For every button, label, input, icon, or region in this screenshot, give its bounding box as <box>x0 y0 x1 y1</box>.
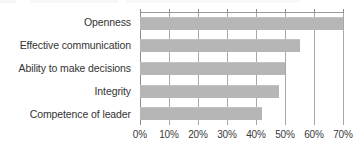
bar <box>140 17 343 30</box>
bar-series <box>140 12 343 125</box>
value-axis-tick-label: 20% <box>188 128 208 141</box>
bar-row <box>140 81 343 102</box>
bar-row <box>140 58 343 79</box>
category-label: Integrity <box>95 86 131 97</box>
bar-row <box>140 13 343 34</box>
bar-chart: Openness Effective communication Ability… <box>0 0 364 161</box>
value-axis-tick-label: 0% <box>133 128 147 141</box>
bar <box>140 85 279 98</box>
bar <box>140 107 262 120</box>
value-axis-tick-label: 30% <box>217 128 237 141</box>
bar-row <box>140 35 343 56</box>
gridline <box>343 12 344 125</box>
value-axis-tick-label: 70% <box>333 128 353 141</box>
bar <box>140 39 300 52</box>
category-axis-labels: Openness Effective communication Ability… <box>0 12 136 125</box>
category-row: Openness <box>0 12 136 33</box>
category-label: Ability to make decisions <box>19 63 131 74</box>
value-axis-tick-label: 40% <box>246 128 266 141</box>
category-label: Openness <box>84 17 131 28</box>
value-axis-tick-label: 50% <box>275 128 295 141</box>
axis-tick <box>343 9 344 13</box>
bar-row <box>140 103 343 124</box>
category-label: Competence of leader <box>30 109 131 120</box>
value-axis-tick-label: 60% <box>304 128 324 141</box>
category-label: Effective communication <box>20 40 131 51</box>
value-axis-tick-label: 10% <box>159 128 179 141</box>
value-axis-labels: 0%10%20%30%40%50%60%70% <box>140 128 343 144</box>
category-row: Competence of leader <box>0 104 136 125</box>
category-row: Ability to make decisions <box>0 58 136 79</box>
scan-artifact <box>0 0 364 3</box>
bar <box>140 62 285 75</box>
plot-area <box>140 12 343 125</box>
category-row: Effective communication <box>0 35 136 56</box>
category-row: Integrity <box>0 81 136 102</box>
